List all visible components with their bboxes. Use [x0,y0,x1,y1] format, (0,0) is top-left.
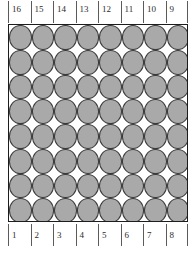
tick-line [166,224,167,246]
tick-line [8,224,9,246]
top-axis-tick-13: 13 [76,1,99,23]
packed-circle [99,75,122,100]
bottom-axis-label: 1 [12,230,17,241]
packed-circle [122,124,145,149]
top-axis-tick-9: 9 [166,1,189,23]
tick-line [31,224,32,246]
packed-circle [144,99,167,124]
top-axis-label: 14 [57,4,66,15]
top-axis-tick-15: 15 [31,1,54,23]
packed-circle [32,174,55,199]
packed-circle [77,174,100,199]
packed-circle [77,75,100,100]
packed-circle [99,50,122,75]
tick-line [8,1,9,23]
packed-circle [122,149,145,174]
top-axis-tick-11: 11 [121,1,144,23]
packed-circle [144,198,167,222]
packed-circle [167,198,189,222]
packed-circle [9,149,32,174]
packed-circle [122,25,145,50]
bottom-axis-end-tick [187,224,188,246]
top-axis-label: 9 [170,4,175,15]
packed-circle [144,174,167,199]
top-axis-label: 15 [35,4,44,15]
tick-line [53,1,54,23]
top-axis: 161514131211109 [8,1,188,23]
top-axis-label: 11 [125,4,134,15]
packed-circle [54,25,77,50]
packed-circle [99,99,122,124]
tick-line [143,1,144,23]
bottom-axis-tick-5: 5 [98,224,121,246]
packed-circle [9,99,32,124]
tick-line [143,224,144,246]
packed-circle [32,75,55,100]
bottom-axis-label: 6 [125,230,130,241]
bottom-axis-label: 3 [57,230,62,241]
tick-line [121,224,122,246]
packed-circle [54,75,77,100]
tick-line [166,1,167,23]
top-axis-tick-10: 10 [143,1,166,23]
packed-circle [99,174,122,199]
tick-line [187,1,188,23]
bottom-axis-tick-1: 1 [8,224,31,246]
top-axis-label: 13 [80,4,89,15]
top-axis-tick-12: 12 [98,1,121,23]
packed-circle [32,99,55,124]
packed-circle [99,25,122,50]
packed-circle [77,124,100,149]
packed-circle [77,25,100,50]
tick-line [53,224,54,246]
top-axis-tick-14: 14 [53,1,76,23]
tick-line [121,1,122,23]
bottom-axis-tick-4: 4 [76,224,99,246]
packed-circle [144,124,167,149]
packed-circle [122,50,145,75]
packed-circle [167,124,189,149]
packed-circle [9,25,32,50]
bottom-axis-label: 7 [147,230,152,241]
bottom-axis: 12345678 [8,224,188,246]
tick-line [76,1,77,23]
bottom-axis-tick-6: 6 [121,224,144,246]
packed-circle [122,174,145,199]
bottom-axis-label: 8 [170,230,175,241]
top-axis-tick-16: 16 [8,1,31,23]
packed-circle [9,198,32,222]
packed-circle [77,50,100,75]
packed-circle [122,75,145,100]
packed-circle [54,124,77,149]
packed-circle [9,50,32,75]
circle-packing-figure: 161514131211109 12345678 [0,0,196,258]
tick-line [98,1,99,23]
top-axis-label: 12 [102,4,111,15]
packed-circle [167,149,189,174]
packed-circle [77,149,100,174]
bottom-axis-label: 4 [80,230,85,241]
top-axis-label: 10 [147,4,156,15]
packed-circle [122,198,145,222]
tick-line [187,224,188,246]
packed-circle [144,25,167,50]
packed-circle [122,99,145,124]
packed-circle [77,99,100,124]
tick-line [76,224,77,246]
packed-circle [167,75,189,100]
packing-box [8,24,188,222]
bottom-axis-tick-3: 3 [53,224,76,246]
packed-circle [167,25,189,50]
bottom-axis-label: 2 [35,230,40,241]
tick-line [31,1,32,23]
packed-circle [167,99,189,124]
circle-grid [9,25,188,222]
figure-caption [0,250,196,258]
packed-circle [144,50,167,75]
bottom-axis-tick-7: 7 [143,224,166,246]
packed-circle [54,174,77,199]
top-axis-label: 16 [12,4,21,15]
packed-circle [54,50,77,75]
top-axis-end-tick [187,1,188,23]
packed-circle [54,149,77,174]
